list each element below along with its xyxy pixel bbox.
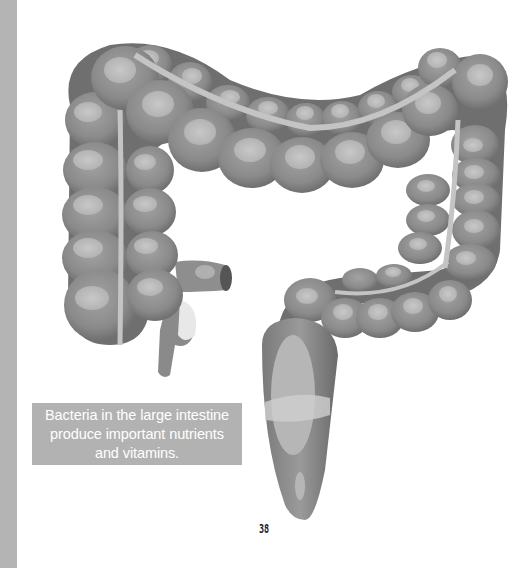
caption-box: Bacteria in the large intestine produce … [32, 403, 242, 465]
caption-line-3: and vitamins. [32, 444, 242, 463]
rectum [262, 318, 338, 520]
caption-line-2: produce important nutrients [32, 425, 242, 444]
large-intestine-illustration [0, 0, 531, 568]
page-number: 38 [256, 522, 273, 536]
ileum [175, 261, 232, 292]
caption-line-1: Bacteria in the large intestine [32, 406, 242, 425]
